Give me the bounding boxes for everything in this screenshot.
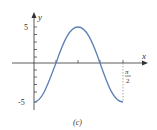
y-axis-label: y [37, 12, 42, 22]
x-ticks [56, 60, 123, 63]
y-ticks [34, 27, 37, 102]
caption: (c) [73, 118, 82, 127]
x-axis-arrow-icon [142, 61, 148, 66]
data-curve [34, 27, 123, 102]
y-tick-label-neg5: -5 [18, 98, 25, 107]
chart: y x 5 -5 π 2 (c) [0, 0, 157, 130]
x-axis-label: x [141, 51, 146, 61]
x-tick-label-pi: π [125, 68, 129, 76]
y-tick-label-5: 5 [24, 23, 28, 32]
y-axis-arrow-icon [32, 12, 37, 18]
x-tick-label-2: 2 [126, 77, 130, 85]
